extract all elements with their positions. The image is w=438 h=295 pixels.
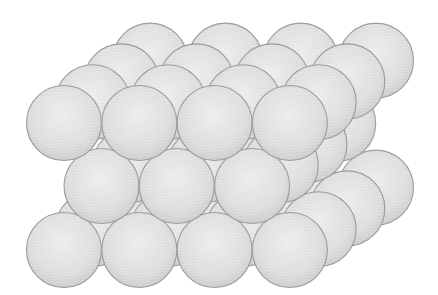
sphere (102, 86, 177, 161)
sphere (177, 213, 252, 288)
sphere (102, 213, 177, 288)
sphere (177, 86, 252, 161)
sphere-packing-diagram (0, 0, 438, 295)
diagram-canvas (0, 0, 438, 295)
sphere (252, 86, 327, 161)
sphere (215, 149, 290, 224)
sphere (252, 213, 327, 288)
sphere (27, 86, 102, 161)
sphere-layers (27, 23, 414, 287)
sphere (139, 149, 214, 224)
sphere (64, 149, 139, 224)
sphere (27, 213, 102, 288)
